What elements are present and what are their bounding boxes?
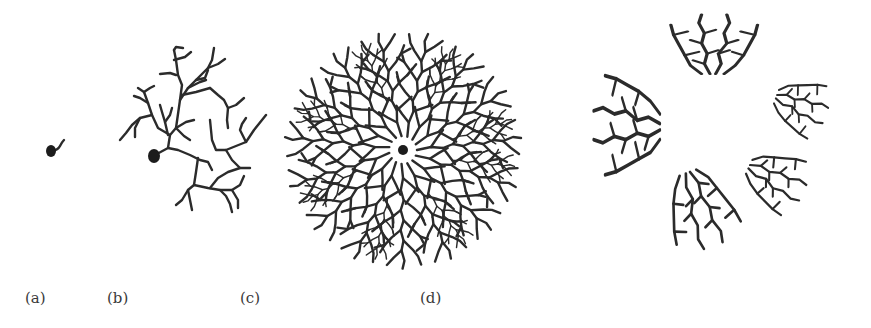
fragment-top — [671, 14, 758, 74]
panel-d — [0, 0, 871, 328]
panel-label-b: (b) — [107, 289, 128, 307]
fragment-left — [594, 76, 661, 175]
panel-label-a: (a) — [25, 289, 46, 307]
panel-label-d: (d) — [420, 289, 441, 307]
fragment-right-upper — [767, 71, 835, 141]
fragment-right-lower — [736, 141, 815, 220]
panel-d-drawing — [0, 0, 871, 328]
panel-label-c: (c) — [240, 289, 260, 307]
fragment-bottom — [655, 161, 745, 257]
